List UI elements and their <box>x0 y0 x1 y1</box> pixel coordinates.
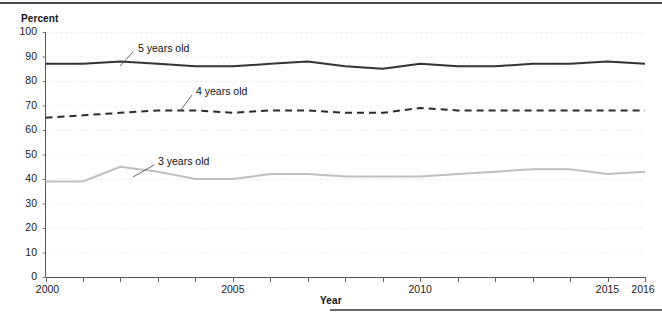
leader-line-1 <box>120 52 133 66</box>
chart-figure: Percent 0102030405060708090100 200020052… <box>0 0 662 315</box>
y-tick-label: 90 <box>11 50 37 62</box>
leader-line-2 <box>180 95 192 111</box>
series-label-1: 5 years old <box>138 42 189 54</box>
y-tick-label: 40 <box>11 172 37 184</box>
y-tick-label: 60 <box>11 123 37 135</box>
x-axis-title: Year <box>0 295 662 306</box>
series-line-3 <box>46 167 646 182</box>
x-tick-label: 2015 <box>588 283 628 295</box>
series-line-1 <box>46 61 646 68</box>
y-tick-label: 30 <box>11 197 37 209</box>
bottom-divider-rule <box>330 309 662 311</box>
x-tick-label: 2000 <box>28 283 68 295</box>
y-tick-label: 70 <box>11 99 37 111</box>
y-tick-label: 10 <box>11 246 37 258</box>
x-tick-label: 2005 <box>213 283 253 295</box>
plot-area <box>0 0 662 315</box>
x-tick-label: 2016 <box>623 283 662 295</box>
y-tick-label: 80 <box>11 74 37 86</box>
axes-group <box>43 32 646 278</box>
series-label-3: 3 years old <box>158 155 209 167</box>
y-tick-label: 20 <box>11 221 37 233</box>
series-label-2: 4 years old <box>196 85 247 97</box>
series-paths-group <box>46 61 646 181</box>
y-tick-label: 100 <box>11 25 37 37</box>
series-line-2 <box>46 108 646 118</box>
y-tick-label: 50 <box>11 148 37 160</box>
x-tick-label: 2010 <box>400 283 440 295</box>
y-tick-label: 0 <box>11 270 37 282</box>
